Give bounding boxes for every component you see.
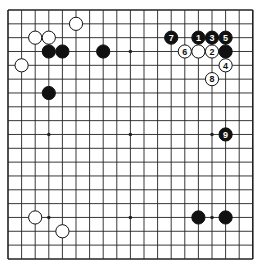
move-number: 6 xyxy=(182,47,187,57)
go-board[interactable]: 713562489 xyxy=(0,0,258,269)
star-point xyxy=(47,216,51,220)
white-stone[interactable] xyxy=(42,31,55,44)
white-stone[interactable] xyxy=(192,45,205,58)
move-number: 7 xyxy=(169,33,174,43)
star-point xyxy=(129,133,133,137)
white-stone[interactable] xyxy=(56,225,69,238)
white-stone-6[interactable]: 6 xyxy=(178,45,191,58)
move-number: 5 xyxy=(223,33,228,43)
black-stone[interactable] xyxy=(192,211,205,224)
move-number: 3 xyxy=(209,33,214,43)
stone-circle xyxy=(56,225,69,238)
stone-circle xyxy=(219,211,232,224)
black-stone-5[interactable]: 5 xyxy=(219,31,232,44)
move-number: 9 xyxy=(223,130,228,140)
stone-circle xyxy=(29,211,42,224)
stone-circle xyxy=(42,86,55,99)
black-stone-9[interactable]: 9 xyxy=(219,128,232,141)
white-stone-2[interactable]: 2 xyxy=(205,45,218,58)
stone-circle xyxy=(42,45,55,58)
black-stone-3[interactable]: 3 xyxy=(205,31,218,44)
stone-circle xyxy=(192,45,205,58)
move-number: 8 xyxy=(209,74,214,84)
star-point xyxy=(47,133,51,137)
black-stone[interactable] xyxy=(97,45,110,58)
white-stone[interactable] xyxy=(29,31,42,44)
move-number: 2 xyxy=(209,47,214,57)
stone-circle xyxy=(192,211,205,224)
black-stone-1[interactable]: 1 xyxy=(192,31,205,44)
move-number: 1 xyxy=(196,33,201,43)
star-point xyxy=(129,216,133,220)
stone-circle xyxy=(219,45,232,58)
white-stone-8[interactable]: 8 xyxy=(205,73,218,86)
stone-circle xyxy=(97,45,110,58)
white-stone[interactable] xyxy=(15,59,28,72)
stone-circle xyxy=(29,31,42,44)
black-stone[interactable] xyxy=(42,45,55,58)
white-stone[interactable] xyxy=(69,17,82,30)
black-stone-7[interactable]: 7 xyxy=(165,31,178,44)
star-point xyxy=(210,216,214,220)
stone-circle xyxy=(56,45,69,58)
move-number: 4 xyxy=(223,61,228,71)
stone-circle xyxy=(69,17,82,30)
stones-layer: 713562489 xyxy=(15,17,232,238)
black-stone[interactable] xyxy=(56,45,69,58)
black-stone[interactable] xyxy=(42,86,55,99)
black-stone[interactable] xyxy=(219,211,232,224)
stone-circle xyxy=(42,31,55,44)
star-point xyxy=(129,50,133,54)
white-stone-4[interactable]: 4 xyxy=(219,59,232,72)
star-point xyxy=(210,133,214,137)
black-stone[interactable] xyxy=(219,45,232,58)
white-stone[interactable] xyxy=(29,211,42,224)
stone-circle xyxy=(15,59,28,72)
